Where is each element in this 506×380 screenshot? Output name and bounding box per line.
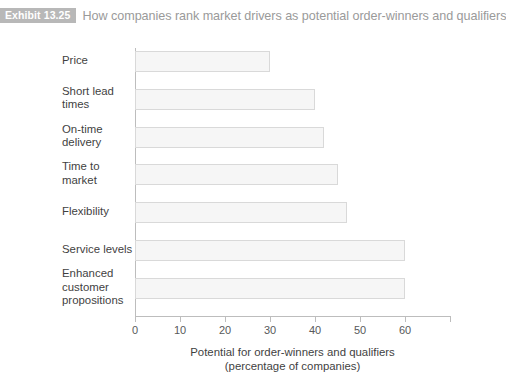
x-tick-20 <box>225 316 226 322</box>
x-tick-label-30: 30 <box>264 324 276 336</box>
bar-row <box>135 164 338 185</box>
bar <box>135 240 405 261</box>
x-tick-label-50: 50 <box>354 324 366 336</box>
x-tick-50 <box>360 316 361 322</box>
bar-row <box>135 89 315 110</box>
category-label: On-time delivery <box>62 123 103 150</box>
bar <box>135 278 405 299</box>
bar <box>135 127 324 148</box>
x-tick-label-10: 10 <box>174 324 186 336</box>
x-axis-title: Potential for order-winners and qualifie… <box>135 345 450 373</box>
bar <box>135 164 338 185</box>
bar-row <box>135 51 270 72</box>
bar-row <box>135 127 324 148</box>
category-label: Price <box>62 54 88 68</box>
x-tick-40 <box>315 316 316 322</box>
x-tick-60 <box>405 316 406 322</box>
x-tick-label-20: 20 <box>219 324 231 336</box>
category-label: Short lead times <box>62 85 114 112</box>
x-axis-line <box>135 316 450 317</box>
x-tick-label-0: 0 <box>132 324 138 336</box>
x-axis-title-line2: (percentage of companies) <box>135 359 450 373</box>
x-tick-30 <box>270 316 271 322</box>
category-label: Enhanced customer propositions <box>62 267 123 308</box>
x-tick-10 <box>180 316 181 322</box>
bar-row <box>135 202 347 223</box>
category-label: Service levels <box>62 243 132 257</box>
category-label: Time to market <box>62 160 100 187</box>
bar <box>135 51 270 72</box>
bar-row <box>135 240 405 261</box>
x-tick-label-60: 60 <box>399 324 411 336</box>
bar <box>135 202 347 223</box>
bar <box>135 89 315 110</box>
category-label: Flexibility <box>62 205 109 219</box>
x-tick-0 <box>135 316 136 322</box>
bar-row <box>135 278 405 299</box>
x-axis-title-line1: Potential for order-winners and qualifie… <box>135 345 450 359</box>
x-tick-70 <box>450 316 451 322</box>
x-tick-label-40: 40 <box>309 324 321 336</box>
